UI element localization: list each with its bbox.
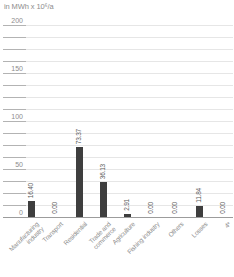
category-label: Trade and commerce <box>88 221 118 251</box>
y-gridline-tick <box>3 37 26 38</box>
y-gridline-tick <box>3 25 26 26</box>
y-gridline-tick <box>3 121 26 122</box>
bar-value-label: 16.40 <box>27 183 34 198</box>
y-gridline <box>26 49 233 50</box>
y-tick-label: 50 <box>0 161 23 169</box>
y-tick-label: 200 <box>0 17 23 25</box>
bar-value-label: 0.00 <box>51 202 58 214</box>
category-label: Others <box>167 221 185 239</box>
y-gridline <box>26 133 233 134</box>
y-gridline-tick <box>3 205 26 206</box>
y-tick-label: 150 <box>0 65 23 73</box>
y-gridline <box>26 169 233 170</box>
y-tick-label: 0 <box>0 209 23 217</box>
category-label: 4* <box>224 221 233 230</box>
y-gridline-tick <box>3 133 26 134</box>
y-gridline <box>26 73 233 74</box>
y-gridline <box>26 85 233 86</box>
x-axis-line <box>3 217 233 218</box>
y-gridline-tick <box>3 109 26 110</box>
y-gridline <box>26 97 233 98</box>
y-gridline-tick <box>3 61 26 62</box>
y-gridline-tick <box>3 49 26 50</box>
y-gridline <box>26 109 233 110</box>
y-gridline <box>26 25 233 26</box>
y-gridline <box>26 37 233 38</box>
bar-value-label: 2.91 <box>123 199 130 211</box>
energy-consumption-bar-chart: in MWh x 10⁶/a 05010015020016.40Manufact… <box>0 0 234 277</box>
bar <box>196 206 203 217</box>
y-tick-label: 100 <box>0 113 23 121</box>
y-gridline-tick <box>3 157 26 158</box>
bar <box>28 201 35 217</box>
bar-value-label: 73.37 <box>75 129 82 144</box>
y-gridline-tick <box>3 169 26 170</box>
y-gridline <box>26 145 233 146</box>
y-gridline-tick <box>3 145 26 146</box>
category-label: Residential <box>63 221 89 247</box>
bar <box>100 182 107 217</box>
y-gridline-tick <box>3 97 26 98</box>
bar <box>124 214 131 217</box>
bar-value-label: 11.84 <box>195 188 202 203</box>
y-gridline <box>26 61 233 62</box>
y-gridline <box>26 121 233 122</box>
bar-value-label: 0.00 <box>219 202 226 214</box>
category-label: Manufacturing industry <box>9 221 45 257</box>
y-gridline-tick <box>3 181 26 182</box>
y-gridline <box>26 181 233 182</box>
y-gridline-tick <box>3 73 26 74</box>
y-gridline <box>26 157 233 158</box>
bar <box>76 147 83 217</box>
bar-value-label: 36.13 <box>99 164 106 179</box>
bar-value-label: 0.00 <box>147 202 154 214</box>
y-gridline-tick <box>3 193 26 194</box>
category-label: Losses <box>190 221 208 239</box>
bar-value-label: 0.00 <box>171 202 178 214</box>
y-axis-unit-label: in MWh x 10⁶/a <box>4 2 54 11</box>
y-gridline-tick <box>3 85 26 86</box>
